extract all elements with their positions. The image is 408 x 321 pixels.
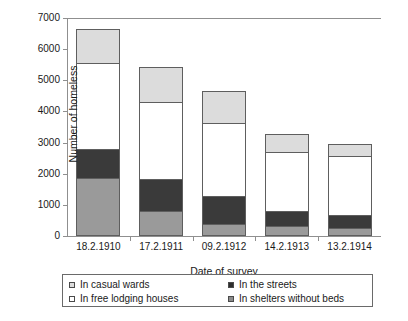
legend: In casual wardsIn free lodging houses In… <box>62 274 373 307</box>
legend-item-label: In the streets <box>239 279 297 290</box>
legend-item[interactable]: In casual wards <box>69 278 178 291</box>
y-tick-mark <box>63 174 68 175</box>
y-tick-mark <box>63 236 68 237</box>
x-category-label: 18.2.1910 <box>76 241 121 252</box>
bar-segment <box>140 212 182 235</box>
plot-area: 70006000500040003000200010000 18.2.19101… <box>67 18 381 236</box>
bar-segment <box>266 135 308 153</box>
y-tick-mark <box>63 49 68 50</box>
x-category-label: 17.2.1911 <box>139 241 183 252</box>
legend-item-label: In shelters without beds <box>239 293 344 304</box>
bar-segment <box>329 145 371 157</box>
legend-swatch-free-lodging-houses <box>69 296 75 302</box>
legend-item[interactable]: In free lodging houses <box>69 292 178 305</box>
x-tick-mark <box>193 236 194 241</box>
x-tick-mark <box>318 236 319 241</box>
y-tick-label: 5000 <box>38 75 60 85</box>
y-tick-label: 7000 <box>38 13 60 23</box>
bar-13.2.1914[interactable] <box>328 144 372 236</box>
clipped-caption-remnant <box>130 0 250 5</box>
legend-item-label: In casual wards <box>80 279 149 290</box>
x-tick-mark <box>255 236 256 241</box>
bar-14.2.1913[interactable] <box>265 134 309 236</box>
y-tick-label: 2000 <box>38 169 60 179</box>
bar-18.2.1910[interactable] <box>76 29 120 236</box>
bar-segment <box>77 30 119 65</box>
y-axis-title: Number of homeless <box>67 65 79 162</box>
bar-segment <box>140 103 182 180</box>
bar-09.2.1912[interactable] <box>202 91 246 236</box>
legend-item[interactable]: In the streets <box>228 278 344 291</box>
y-tick-label: 0 <box>54 231 60 241</box>
legend-item[interactable]: In shelters without beds <box>228 292 344 305</box>
bar-segment <box>329 229 371 235</box>
bar-segment <box>203 225 245 235</box>
y-tick-label: 6000 <box>38 44 60 54</box>
bar-segment <box>77 179 119 235</box>
x-axis-line <box>67 236 381 237</box>
legend-item-label: In free lodging houses <box>80 293 178 304</box>
bar-17.2.1911[interactable] <box>139 67 183 236</box>
y-tick-mark <box>63 18 68 19</box>
bar-segment <box>203 92 245 124</box>
bar-segment <box>266 212 308 227</box>
y-tick-label: 1000 <box>38 200 60 210</box>
chart-root: 70006000500040003000200010000 18.2.19101… <box>0 0 408 321</box>
bar-segment <box>329 216 371 229</box>
legend-column-right: In the streetsIn shelters without beds <box>228 278 344 306</box>
x-category-label: 13.2.1914 <box>327 241 372 252</box>
legend-swatch-in-the-streets <box>228 282 234 288</box>
bar-segment <box>77 150 119 179</box>
bar-segment <box>203 124 245 196</box>
bar-segment <box>329 157 371 216</box>
bar-segment <box>266 227 308 235</box>
x-category-label: 09.2.1912 <box>202 241 247 252</box>
plot-top-border <box>67 18 381 19</box>
bar-segment <box>266 153 308 213</box>
y-tick-label: 3000 <box>38 138 60 148</box>
x-tick-mark <box>130 236 131 241</box>
legend-swatch-shelters-without-beds <box>228 296 234 302</box>
bar-segment <box>203 197 245 225</box>
x-category-label: 14.2.1913 <box>265 241 310 252</box>
y-tick-label: 4000 <box>38 106 60 116</box>
bar-segment <box>77 64 119 150</box>
bar-segment <box>140 180 182 212</box>
bar-segment <box>140 68 182 103</box>
y-tick-mark <box>63 205 68 206</box>
legend-column-left: In casual wardsIn free lodging houses <box>69 278 178 306</box>
legend-swatch-casual-wards <box>69 282 75 288</box>
